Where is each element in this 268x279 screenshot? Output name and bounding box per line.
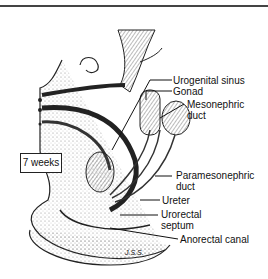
stage-label: 7 weeks [20, 153, 62, 173]
label-ureter: Ureter [162, 195, 190, 206]
label-paramesonephric-duct-line2: duct [176, 181, 195, 192]
label-urogenital-sinus: Urogenital sinus [173, 75, 245, 86]
label-mesonephric-duct-line2: duct [187, 110, 206, 121]
label-urorectal-septum-line2: septum [161, 220, 194, 231]
label-gonad: Gonad [173, 86, 203, 97]
label-anorectal-canal: Anorectal canal [180, 234, 249, 245]
label-mesonephric-duct: Mesonephric [187, 99, 244, 110]
label-paramesonephric-duct: Paramesonephric [176, 170, 254, 181]
label-urorectal-septum: Urorectal [161, 209, 202, 220]
artist-signature: J.S.S. [125, 247, 144, 258]
